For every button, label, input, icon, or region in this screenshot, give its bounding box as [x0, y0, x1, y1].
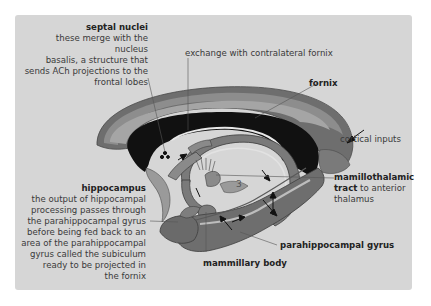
mamillothalamic-label: mamillothalamic tract to anterior thalam…	[334, 172, 414, 205]
hippocampus-title: hippocampus	[20, 183, 146, 194]
hippocampus-desc-7: ready to be projected in	[20, 260, 146, 271]
hippocampus-desc-6: gyrus called the subiculum	[20, 249, 146, 260]
fornix-label: fornix	[309, 78, 338, 89]
hippocampus-desc-4: before being fed back to an	[20, 227, 146, 238]
mamillothalamic-tract: tract	[334, 183, 357, 193]
septal-nuclei-title: septal nuclei	[20, 22, 148, 33]
septal-nuclei-desc-3: sends ACh projections to the	[20, 66, 148, 77]
mamillothalamic-title: mamillothalamic	[334, 172, 414, 183]
hippocampus-desc-2: processing passes through	[20, 205, 146, 216]
parahippocampal-gyrus-label: parahippocampal gyrus	[280, 240, 394, 251]
mamillothalamic-line3: thalamus	[334, 194, 414, 205]
third-ventricle-marker: 3	[236, 179, 242, 190]
hippocampus-desc-1: the output of hippocampal	[20, 194, 146, 205]
hippocampus-desc-3: the parahippocampal gyrus	[20, 216, 146, 227]
hippocampus-desc-8: the fornix	[20, 271, 146, 282]
septal-nuclei-desc-1: these merge with the nucleus	[20, 33, 148, 55]
septal-nuclei-desc-2: basalis, a structure that	[20, 55, 148, 66]
mamillothalamic-rest: to anterior	[357, 183, 405, 193]
temporal-hook	[146, 168, 170, 222]
mammillary-body-label: mammillary body	[203, 258, 287, 269]
septal-nuclei-desc-4: frontal lobes	[20, 77, 148, 88]
hippocampus-label: hippocampus the output of hippocampal pr…	[20, 183, 146, 282]
exchange-label: exchange with contralateral fornix	[185, 48, 333, 59]
cortical-inputs-label: cortical inputs	[340, 134, 401, 145]
septal-nuclei-label: septal nuclei these merge with the nucle…	[20, 22, 148, 88]
hippocampus-desc-5: area of the parahippocampal	[20, 238, 146, 249]
